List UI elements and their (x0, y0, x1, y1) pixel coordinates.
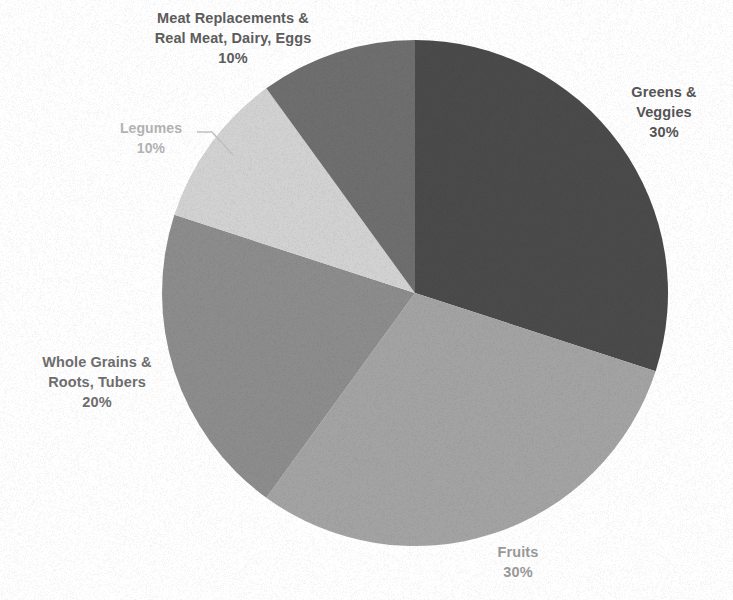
slice-label-grains-line1: Whole Grains & (2, 352, 192, 372)
slice-value-meat: 10% (104, 48, 362, 68)
slice-label-whole-grains: Whole Grains & Roots, Tubers 20% (2, 352, 192, 412)
slice-label-legumes-line1: Legumes (96, 118, 206, 138)
slice-value-grains: 20% (2, 392, 192, 412)
slice-label-meat-line1: Meat Replacements & (104, 8, 362, 28)
slice-label-meat-line2: Real Meat, Dairy, Eggs (104, 28, 362, 48)
slice-label-grains-line2: Roots, Tubers (2, 372, 192, 392)
slice-value-legumes: 10% (96, 138, 206, 158)
slice-value-greens: 30% (608, 122, 720, 142)
slice-label-meat-replacements: Meat Replacements & Real Meat, Dairy, Eg… (104, 8, 362, 68)
slice-label-greens-line1: Greens & (608, 82, 720, 102)
pie-slice-group (162, 40, 668, 546)
slice-label-greens-veggies: Greens & Veggies 30% (608, 82, 720, 142)
slice-label-greens-line2: Veggies (608, 102, 720, 122)
slice-label-fruits-line1: Fruits (470, 542, 566, 562)
slice-value-fruits: 30% (470, 562, 566, 582)
pie-chart: Meat Replacements & Real Meat, Dairy, Eg… (0, 0, 733, 600)
slice-label-fruits: Fruits 30% (470, 542, 566, 582)
slice-label-legumes: Legumes 10% (96, 118, 206, 158)
